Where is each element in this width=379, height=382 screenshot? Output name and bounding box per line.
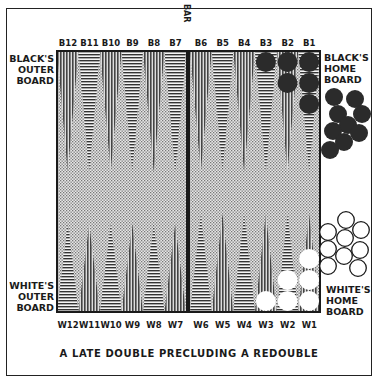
black-checker (278, 52, 298, 72)
black-checker (256, 52, 276, 72)
white-checker (299, 249, 319, 269)
backgammon-board (0, 0, 379, 382)
black-checker (299, 73, 319, 93)
black-checker (278, 73, 298, 93)
white-checker (278, 270, 298, 290)
white-checker (299, 291, 319, 311)
white-checker (256, 291, 276, 311)
black-checker (299, 94, 319, 114)
white-borne-off (320, 212, 370, 277)
black-borne-off (321, 88, 371, 159)
white-checker (299, 270, 319, 290)
black-checker (299, 52, 319, 72)
white-checker (278, 291, 298, 311)
bar (186, 51, 190, 312)
diagram-caption: A LATE DOUBLE PRECLUDING A REDOUBLE (6, 348, 372, 359)
